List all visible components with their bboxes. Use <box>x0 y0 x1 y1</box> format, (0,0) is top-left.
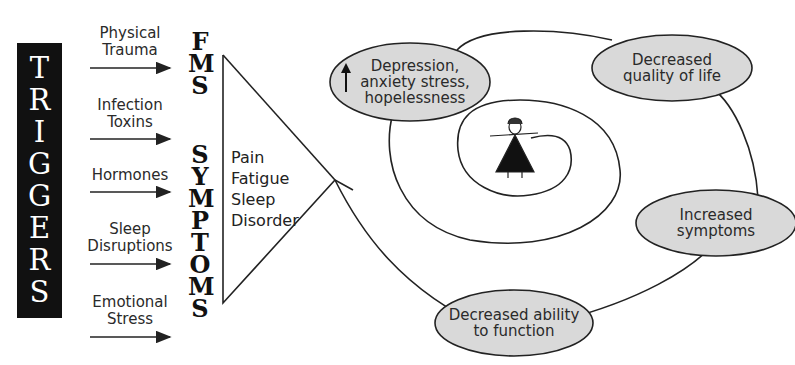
trigger-sleep-disruptions: Sleep Disruptions <box>75 221 185 255</box>
symptom-pain: Pain <box>231 147 299 168</box>
node-quality-of-life: Decreased quality of life <box>596 42 748 94</box>
symptoms-label: S Y M P T O M S <box>188 144 212 320</box>
triggers-letter: E <box>29 214 50 243</box>
triggers-letter: S <box>30 278 50 307</box>
node-depression: Depression, anxiety stress, hopelessness <box>350 48 480 116</box>
trigger-emotional-stress: Emotional Stress <box>75 294 185 328</box>
trigger-infection-toxins: Infection Toxins <box>75 97 185 131</box>
core-symptoms-list: Pain Fatigue Sleep Disorder <box>231 147 299 231</box>
symptom-fatigue: Fatigue <box>231 168 299 189</box>
node-decreased-function: Decreased ability to function <box>437 297 591 349</box>
symptom-disorder: Disorder <box>231 210 299 231</box>
trigger-physical-trauma: Physical Trauma <box>75 25 185 59</box>
fms-label: F M S <box>188 31 212 97</box>
spiral-right-upper <box>712 88 758 198</box>
node-increased-symptoms: Increased symptoms <box>640 197 792 249</box>
triggers-letter: R <box>29 86 51 115</box>
triggers-letter: G <box>28 182 51 211</box>
person-figure-icon <box>490 118 538 178</box>
triggers-letter: I <box>34 118 45 147</box>
trigger-hormones: Hormones <box>75 167 185 184</box>
triggers-letter: R <box>29 246 51 275</box>
triggers-letter: G <box>28 150 51 179</box>
spiral-top-arc <box>457 31 612 50</box>
symptom-sleep: Sleep <box>231 189 299 210</box>
triggers-letter: T <box>30 54 49 83</box>
triggers-bar: T R I G G E R S <box>17 43 62 318</box>
